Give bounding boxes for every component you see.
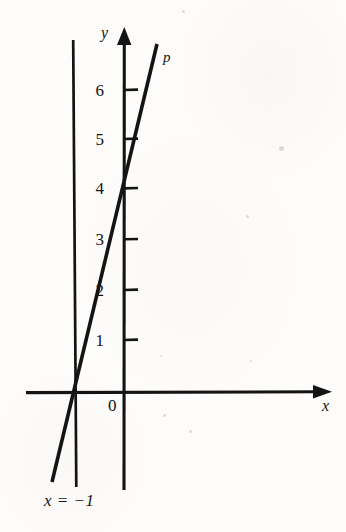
figure-canvas: 1 2 3 4 5 6 0 y x p x = −1	[0, 0, 346, 532]
y-tick-label-2: 2	[88, 282, 104, 299]
y-axis-arrowhead	[117, 27, 131, 45]
y-tick-label-6: 6	[88, 82, 104, 99]
origin-label: 0	[108, 397, 117, 414]
y-tick-label-1: 1	[88, 332, 104, 349]
line-p-label: p	[163, 50, 171, 65]
y-tick-label-4: 4	[88, 180, 104, 197]
line-p	[52, 44, 157, 482]
x-axis-line	[26, 392, 318, 393]
y-tick-label-3: 3	[88, 231, 104, 248]
line-x-equals-minus-1-label: x = −1	[44, 492, 95, 509]
x-axis-name-label: x	[322, 398, 329, 414]
y-tick-label-5: 5	[88, 131, 104, 148]
y-axis-name-label: y	[101, 25, 108, 41]
vertical-line-x-equals-minus-1	[73, 40, 76, 487]
graph-drawing	[0, 0, 346, 532]
y-axis	[117, 27, 131, 490]
